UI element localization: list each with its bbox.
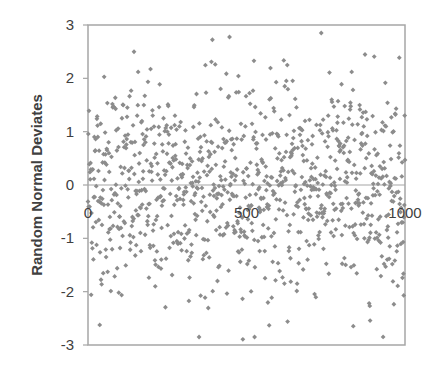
data-point: [117, 214, 122, 219]
data-point: [253, 192, 258, 197]
data-point: [305, 257, 310, 262]
data-point: [284, 79, 289, 84]
data-point: [275, 156, 280, 161]
data-point: [159, 225, 164, 230]
data-point: [213, 162, 218, 167]
data-point: [191, 174, 196, 179]
data-point: [122, 166, 127, 171]
data-point: [239, 121, 244, 126]
data-point: [132, 49, 137, 54]
data-point: [231, 142, 236, 147]
data-point: [331, 234, 336, 239]
data-point: [148, 67, 153, 72]
data-point: [227, 35, 232, 40]
data-point: [146, 79, 151, 84]
data-point: [134, 208, 139, 213]
data-point: [253, 129, 258, 134]
data-point: [272, 109, 277, 114]
data-point: [280, 275, 285, 280]
data-point: [141, 169, 146, 174]
data-point: [381, 335, 386, 340]
data-point: [357, 103, 362, 108]
data-point: [216, 144, 221, 149]
data-point: [132, 153, 137, 158]
data-point: [225, 291, 230, 296]
data-point: [389, 115, 394, 120]
data-point: [133, 253, 138, 258]
data-point: [332, 183, 337, 188]
data-point: [250, 121, 255, 126]
y-tick-label: 3: [66, 16, 74, 33]
data-point: [360, 210, 365, 215]
data-point: [197, 121, 202, 126]
data-point: [293, 96, 298, 101]
data-point: [98, 250, 103, 255]
data-point: [326, 113, 331, 118]
data-point: [253, 105, 258, 110]
data-point: [101, 271, 106, 276]
y-tick-label: -3: [61, 336, 74, 353]
data-point: [206, 238, 211, 243]
data-point: [145, 222, 150, 227]
data-point: [286, 87, 291, 92]
data-point: [109, 187, 114, 192]
data-point: [363, 52, 368, 57]
data-point: [300, 153, 305, 158]
data-point: [136, 70, 141, 75]
data-point: [159, 257, 164, 262]
data-point: [326, 271, 331, 276]
data-point: [155, 172, 160, 177]
data-point: [147, 275, 152, 280]
data-point: [335, 114, 340, 119]
data-point: [197, 175, 202, 180]
data-point: [385, 228, 390, 233]
data-point: [177, 124, 182, 129]
data-point: [114, 182, 119, 187]
y-tick-label: 2: [66, 69, 74, 86]
data-point: [127, 94, 132, 99]
data-point: [389, 157, 394, 162]
data-point: [274, 80, 279, 85]
data-point: [285, 213, 290, 218]
data-point: [110, 247, 115, 252]
data-point: [281, 58, 286, 63]
y-axis-label: Random Normal Deviates: [28, 94, 45, 276]
data-point: [264, 174, 269, 179]
data-point: [256, 239, 261, 244]
data-point: [247, 91, 252, 96]
data-point: [198, 293, 203, 298]
data-point: [207, 192, 212, 197]
data-point: [165, 223, 170, 228]
data-point: [347, 150, 352, 155]
data-point: [145, 127, 150, 132]
data-point: [302, 196, 307, 201]
data-point: [105, 101, 110, 106]
data-point: [168, 192, 173, 197]
data-point: [160, 203, 165, 208]
data-point: [226, 268, 231, 273]
data-point: [157, 105, 162, 110]
data-point: [258, 111, 263, 116]
data-point: [154, 249, 159, 254]
data-point: [120, 234, 125, 239]
data-point: [150, 108, 155, 113]
data-point: [295, 281, 300, 286]
data-point: [209, 59, 214, 64]
data-point: [198, 149, 203, 154]
data-point: [329, 230, 334, 235]
data-point: [365, 117, 370, 122]
data-point: [241, 134, 246, 139]
data-point: [299, 187, 304, 192]
data-point: [227, 197, 232, 202]
data-point: [233, 156, 238, 161]
data-point: [330, 218, 335, 223]
data-point: [292, 128, 297, 133]
data-point: [368, 318, 373, 323]
data-point: [362, 166, 367, 171]
data-point: [284, 132, 289, 137]
data-point: [391, 279, 396, 284]
data-point: [301, 267, 306, 272]
data-point: [239, 137, 244, 142]
data-point: [132, 172, 137, 177]
data-point: [339, 233, 344, 238]
